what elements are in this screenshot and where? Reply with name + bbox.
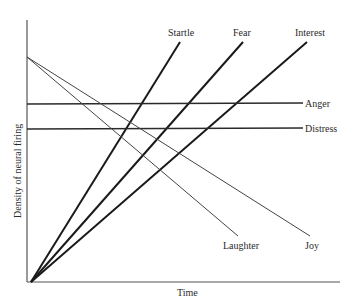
label-startle: Startle xyxy=(168,27,195,38)
x-axis-label: Time xyxy=(177,287,198,298)
line-joy xyxy=(27,57,310,236)
label-distress: Distress xyxy=(305,123,337,134)
label-anger: Anger xyxy=(305,98,331,109)
label-joy: Joy xyxy=(305,240,319,251)
emotion-neural-firing-chart: Startle Fear Interest Anger Distress Lau… xyxy=(0,0,354,306)
label-laughter: Laughter xyxy=(223,240,260,251)
line-startle xyxy=(31,42,180,282)
line-anger xyxy=(27,103,303,104)
label-fear: Fear xyxy=(233,27,251,38)
line-fear xyxy=(31,42,243,282)
line-distress xyxy=(27,128,303,129)
line-interest xyxy=(31,42,307,282)
y-axis-label: Density of neural firing xyxy=(12,124,23,218)
label-interest: Interest xyxy=(295,27,325,38)
